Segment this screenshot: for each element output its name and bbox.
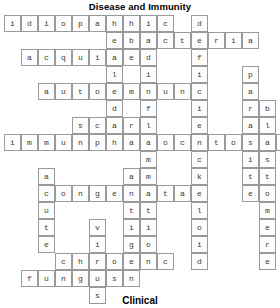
grid-cell[interactable]: r — [259, 236, 276, 253]
grid-cell[interactable]: i — [123, 219, 140, 236]
grid-cell[interactable]: u — [38, 270, 55, 287]
grid-cell[interactable]: n — [140, 83, 157, 100]
grid-cell[interactable]: v — [89, 219, 106, 236]
grid-cell[interactable]: a — [89, 15, 106, 32]
grid-cell[interactable]: n — [72, 185, 89, 202]
grid-cell[interactable]: p — [72, 15, 89, 32]
grid-cell[interactable]: a — [21, 49, 38, 66]
grid-cell[interactable]: i — [225, 32, 242, 49]
grid-cell[interactable]: i — [4, 15, 21, 32]
grid-cell[interactable]: t — [38, 219, 55, 236]
grid-cell[interactable]: t — [242, 168, 259, 185]
grid-cell[interactable]: a — [140, 134, 157, 151]
grid-cell[interactable]: h — [123, 15, 140, 32]
grid-cell[interactable]: t — [157, 185, 174, 202]
grid-cell[interactable]: r — [242, 100, 259, 117]
grid-cell[interactable]: i — [89, 236, 106, 253]
grid-cell[interactable]: u — [89, 270, 106, 287]
grid-cell[interactable]: e — [259, 253, 276, 270]
grid-cell[interactable]: a — [242, 32, 259, 49]
grid-cell[interactable]: i — [191, 100, 208, 117]
grid-cell[interactable]: d — [106, 100, 123, 117]
grid-cell[interactable]: c — [157, 253, 174, 270]
grid-cell[interactable]: o — [106, 253, 123, 270]
grid-cell[interactable]: c — [191, 151, 208, 168]
grid-cell[interactable]: a — [38, 168, 55, 185]
grid-cell[interactable]: e — [191, 32, 208, 49]
grid-cell[interactable]: n — [72, 134, 89, 151]
grid-cell[interactable]: m — [123, 83, 140, 100]
grid-cell[interactable]: r — [208, 32, 225, 49]
grid-cell[interactable]: q — [55, 49, 72, 66]
grid-cell[interactable]: o — [157, 134, 174, 151]
grid-cell[interactable]: u — [157, 83, 174, 100]
grid-cell[interactable]: h — [72, 253, 89, 270]
grid-cell[interactable]: i — [191, 66, 208, 83]
grid-cell[interactable]: d — [21, 15, 38, 32]
grid-cell[interactable]: g — [72, 270, 89, 287]
grid-cell[interactable]: s — [259, 151, 276, 168]
grid-cell[interactable]: d — [191, 15, 208, 32]
grid-cell[interactable]: f — [21, 270, 38, 287]
grid-cell[interactable]: r — [89, 253, 106, 270]
grid-cell[interactable]: o — [140, 236, 157, 253]
grid-cell[interactable]: i — [140, 66, 157, 83]
grid-cell[interactable]: p — [242, 66, 259, 83]
grid-cell[interactable]: a — [123, 168, 140, 185]
grid-cell[interactable]: n — [55, 270, 72, 287]
grid-cell[interactable]: o — [259, 185, 276, 202]
grid-cell[interactable]: e — [123, 49, 140, 66]
grid-cell[interactable]: a — [140, 32, 157, 49]
crossword-grid[interactable]: idiopahhicdebacteriaacquiaedfliipautoemn… — [4, 15, 276, 285]
grid-cell[interactable]: l — [140, 117, 157, 134]
grid-cell[interactable]: k — [191, 168, 208, 185]
grid-cell[interactable]: h — [106, 15, 123, 32]
grid-cell[interactable]: e — [106, 32, 123, 49]
grid-cell[interactable]: m — [140, 151, 157, 168]
grid-cell[interactable]: b — [123, 32, 140, 49]
grid-cell[interactable]: e — [242, 185, 259, 202]
grid-cell[interactable]: i — [140, 15, 157, 32]
grid-cell[interactable]: o — [55, 15, 72, 32]
grid-cell[interactable]: t — [72, 83, 89, 100]
grid-cell[interactable]: a — [174, 185, 191, 202]
grid-cell[interactable]: d — [191, 253, 208, 270]
grid-cell[interactable]: o — [191, 219, 208, 236]
grid-cell[interactable]: c — [191, 83, 208, 100]
grid-cell[interactable]: t — [208, 134, 225, 151]
grid-cell[interactable]: b — [259, 100, 276, 117]
grid-cell[interactable]: n — [191, 134, 208, 151]
grid-cell[interactable]: g — [123, 236, 140, 253]
grid-cell[interactable]: e — [38, 236, 55, 253]
grid-cell[interactable]: n — [123, 185, 140, 202]
grid-cell[interactable]: m — [21, 134, 38, 151]
grid-cell[interactable]: a — [242, 83, 259, 100]
grid-cell[interactable]: l — [259, 117, 276, 134]
grid-cell[interactable]: m — [259, 202, 276, 219]
grid-cell[interactable]: i — [191, 236, 208, 253]
grid-cell[interactable]: g — [89, 185, 106, 202]
grid-cell[interactable]: u — [55, 83, 72, 100]
grid-cell[interactable]: a — [242, 117, 259, 134]
grid-cell[interactable]: e — [106, 83, 123, 100]
grid-cell[interactable]: o — [89, 83, 106, 100]
grid-cell[interactable]: n — [174, 83, 191, 100]
grid-cell[interactable]: h — [106, 134, 123, 151]
grid-cell[interactable]: i — [140, 219, 157, 236]
grid-cell[interactable]: i — [4, 134, 21, 151]
grid-cell[interactable]: m — [38, 134, 55, 151]
grid-cell[interactable]: c — [38, 49, 55, 66]
grid-cell[interactable]: i — [38, 15, 55, 32]
grid-cell[interactable]: c — [55, 253, 72, 270]
grid-cell[interactable]: t — [259, 168, 276, 185]
grid-cell[interactable]: s — [106, 270, 123, 287]
grid-cell[interactable]: e — [191, 185, 208, 202]
grid-cell[interactable]: a — [123, 134, 140, 151]
grid-cell[interactable]: a — [106, 117, 123, 134]
grid-cell[interactable]: e — [106, 185, 123, 202]
grid-cell[interactable]: o — [225, 134, 242, 151]
grid-cell[interactable]: u — [55, 134, 72, 151]
grid-cell[interactable]: i — [89, 49, 106, 66]
grid-cell[interactable]: u — [72, 49, 89, 66]
grid-cell[interactable]: t — [123, 202, 140, 219]
